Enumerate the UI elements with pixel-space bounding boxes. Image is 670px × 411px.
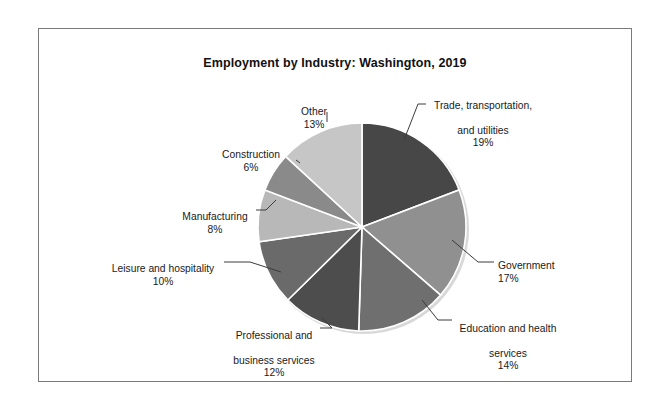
pie-label-manufacturing: Manufacturing 8% [168, 199, 262, 248]
pie-label-manufacturing-line1: Manufacturing [182, 211, 247, 222]
pie-label-education: Education and health services 14% [446, 311, 570, 385]
pie-label-leisure: Leisure and hospitality 10% [100, 251, 226, 300]
pie-label-leisure-pct: 10% [100, 276, 226, 288]
pie-label-construction-line1: Construction [222, 149, 280, 160]
chart-title: Employment by Industry: Washington, 2019 [39, 56, 631, 70]
pie-label-education-line2: services [489, 348, 527, 359]
pie-label-other: Other 13% [285, 94, 343, 143]
pie-label-education-pct: 14% [446, 360, 570, 372]
pie-label-other-line1: Other [301, 106, 327, 117]
pie-label-government-line1: Government [498, 260, 555, 271]
pie-label-education-line1: Education and health [460, 323, 557, 334]
pie-label-professional-pct: 12% [212, 367, 336, 379]
pie-label-professional-line1: Professional and [236, 330, 313, 341]
pie-label-construction: Construction 6% [204, 137, 298, 186]
pie-label-professional-line2: business services [233, 355, 314, 366]
pie-label-leisure-line1: Leisure and hospitality [112, 263, 214, 274]
pie-label-government-pct: 17% [498, 273, 608, 285]
pie-label-government: Government 17% [498, 248, 608, 297]
pie-label-manufacturing-pct: 8% [168, 224, 262, 236]
pie-label-other-pct: 13% [285, 119, 343, 131]
pie-label-trade-line2: and utilities [457, 125, 509, 136]
pie-label-trade: Trade, transportation, and utilities 19% [418, 88, 548, 162]
pie-label-professional: Professional and business services 12% [212, 318, 336, 392]
pie-label-trade-line1: Trade, transportation, [434, 100, 532, 111]
pie-label-construction-pct: 6% [204, 162, 298, 174]
pie-label-trade-pct: 19% [418, 137, 548, 149]
